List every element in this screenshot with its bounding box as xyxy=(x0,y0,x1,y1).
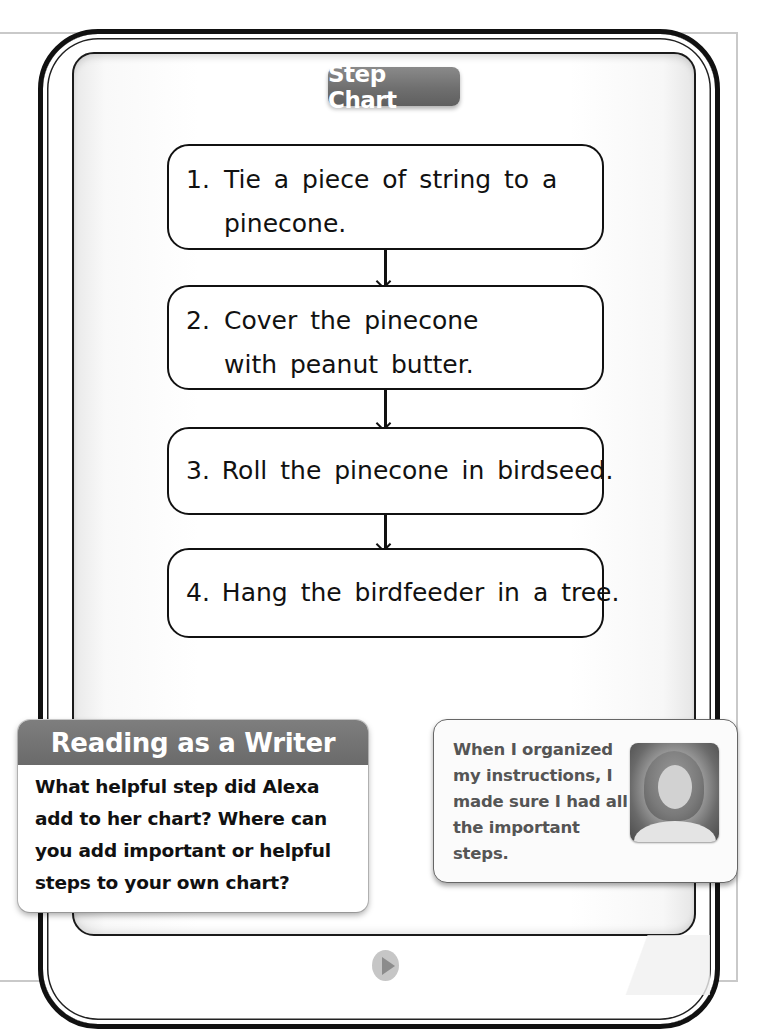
page-title: Step Chart xyxy=(328,67,460,106)
step-text: Tie a piece of string to a pinecone. xyxy=(212,158,584,246)
step-box-2: 2. Cover the pinecone with peanut butter… xyxy=(167,285,604,390)
screen-glare xyxy=(590,935,710,995)
reading-as-writer-question: What helpful step did Alexa add to her c… xyxy=(18,765,368,899)
reading-as-writer-heading: Reading as a Writer xyxy=(18,720,368,765)
step-text: Cover the pinecone with peanut butter. xyxy=(212,299,584,387)
step-number: 1. xyxy=(186,158,212,246)
step-number: 4. xyxy=(186,571,210,615)
student-photo xyxy=(630,743,719,842)
step-box-4: 4. Hang the birdfeeder in a tree. xyxy=(167,548,604,638)
step-text: Roll the pinecone in birdseed. xyxy=(210,449,613,493)
student-quote-card: When I organized my instructions, I made… xyxy=(433,719,738,883)
student-quote-text: When I organized my instructions, I made… xyxy=(453,737,633,867)
step-text: Hang the birdfeeder in a tree. xyxy=(210,571,620,615)
arrow-down-icon xyxy=(384,515,387,548)
photo-face xyxy=(658,765,692,809)
step-box-3: 3. Roll the pinecone in birdseed. xyxy=(167,427,604,515)
photo-shoulders xyxy=(634,821,716,842)
reading-as-writer-card: Reading as a Writer What helpful step di… xyxy=(18,720,368,912)
arrow-down-icon xyxy=(384,390,387,427)
arrow-down-icon xyxy=(384,250,387,285)
step-box-1: 1. Tie a piece of string to a pinecone. xyxy=(167,144,604,250)
step-number: 2. xyxy=(186,299,212,387)
next-page-play-button[interactable] xyxy=(372,950,399,981)
step-number: 3. xyxy=(186,449,210,493)
page-title-text: Step Chart xyxy=(328,61,460,113)
